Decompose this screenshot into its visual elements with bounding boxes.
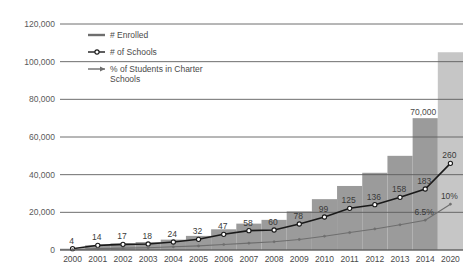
legend-label-0: # Enrolled [110, 30, 149, 40]
marker-percent-2003 [147, 247, 149, 249]
y-axis-tick-80000: 80,000 [29, 94, 55, 104]
x-axis-tick-2012: 2012 [365, 254, 384, 264]
schools-label-2003: 18 [142, 231, 152, 241]
x-axis-tick-2003: 2003 [139, 254, 158, 264]
y-axis-tick-40000: 40,000 [29, 170, 55, 180]
marker-schools-2005 [196, 237, 200, 241]
schools-label-2005: 32 [193, 226, 203, 236]
x-axis-tick-2020: 2020 [441, 254, 460, 264]
x-axis-tick-2001: 2001 [88, 254, 107, 264]
x-axis-tick-2009: 2009 [290, 254, 309, 264]
legend-label-2: % of Students in Charter [110, 64, 203, 74]
schools-label-2013: 158 [392, 184, 406, 194]
legend-label-2-line2: Schools [110, 74, 140, 84]
schools-label-2001: 14 [92, 232, 102, 242]
schools-label-2007: 58 [243, 218, 253, 228]
schools-label-2010: 99 [319, 204, 329, 214]
percent-label-2020: 10% [441, 191, 458, 201]
x-axis-tick-2008: 2008 [265, 254, 284, 264]
legend-open-circle-icon [95, 50, 99, 54]
schools-label-2002: 17 [117, 231, 127, 241]
schools-label-2020: 260 [442, 150, 456, 160]
y-axis-tick-20000: 20,000 [29, 207, 55, 217]
marker-schools-2010 [322, 215, 326, 219]
x-axis-tick-2014: 2014 [416, 254, 435, 264]
x-axis-tick-2011: 2011 [341, 254, 360, 264]
marker-schools-2001 [96, 243, 100, 247]
marker-percent-2002 [122, 247, 124, 249]
marker-percent-2008 [273, 241, 275, 243]
x-axis-tick-2005: 2005 [189, 254, 208, 264]
marker-percent-2010 [323, 235, 325, 237]
marker-schools-2008 [272, 228, 276, 232]
schools-label-2006: 47 [218, 221, 228, 231]
x-axis-tick-2002: 2002 [114, 254, 133, 264]
bar-label-2014: 70,000 [410, 107, 436, 117]
percent-label-2014: 6.5% [415, 207, 435, 217]
schools-label-2011: 125 [342, 195, 356, 205]
schools-label-2012: 136 [367, 192, 381, 202]
legend-arrow-icon [100, 67, 105, 72]
marker-percent-2007 [248, 242, 250, 244]
schools-label-2014: 183 [417, 176, 431, 186]
marker-schools-2007 [247, 229, 251, 233]
schools-label-2008: 60 [268, 217, 278, 227]
marker-schools-2020 [448, 161, 452, 165]
schools-label-2000: 4 [69, 236, 74, 246]
legend-label-1: # of Schools [110, 47, 157, 57]
marker-schools-2009 [297, 222, 301, 226]
marker-percent-2014 [424, 219, 426, 221]
marker-percent-2011 [349, 231, 351, 233]
y-axis-tick-100000: 100,000 [24, 57, 55, 67]
marker-percent-2009 [298, 238, 300, 240]
marker-schools-2004 [171, 240, 175, 244]
marker-percent-2005 [197, 245, 199, 247]
marker-percent-2001 [97, 248, 99, 250]
marker-schools-2012 [373, 203, 377, 207]
schools-label-2004: 24 [168, 229, 178, 239]
schools-label-2009: 78 [294, 211, 304, 221]
x-axis-tick-2007: 2007 [239, 254, 258, 264]
charter-school-growth-chart: 120,000100,00080,00060,00040,00020,00007… [0, 0, 469, 273]
marker-percent-2004 [172, 246, 174, 248]
marker-percent-2020 [449, 203, 451, 205]
marker-schools-2006 [222, 232, 226, 236]
y-axis-tick-120000: 120,000 [24, 19, 55, 29]
y-axis-tick-0: 0 [50, 245, 55, 255]
marker-schools-2011 [348, 206, 352, 210]
marker-schools-2013 [398, 195, 402, 199]
marker-schools-2003 [146, 242, 150, 246]
x-axis-tick-2010: 2010 [315, 254, 334, 264]
bar-enrolled-2012 [362, 173, 387, 250]
x-axis-tick-2013: 2013 [391, 254, 410, 264]
marker-percent-2013 [399, 224, 401, 226]
x-axis-tick-2004: 2004 [164, 254, 183, 264]
x-axis-tick-2000: 2000 [63, 254, 82, 264]
bar-enrolled-2013 [387, 156, 412, 250]
marker-schools-2014 [423, 187, 427, 191]
marker-percent-2006 [223, 243, 225, 245]
marker-schools-2002 [121, 242, 125, 246]
x-axis-tick-2006: 2006 [214, 254, 233, 264]
chart-container: 120,000100,00080,00060,00040,00020,00007… [0, 0, 469, 273]
marker-percent-2012 [374, 228, 376, 230]
y-axis-tick-60000: 60,000 [29, 132, 55, 142]
